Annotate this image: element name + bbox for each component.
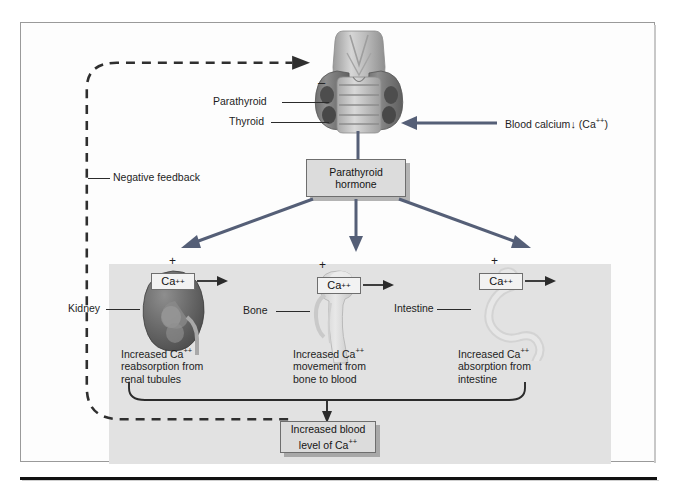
bone-ca-base: Ca: [327, 280, 341, 291]
parathyroid-label: Parathyroid: [213, 95, 267, 108]
bone-effect-l2: movement from: [293, 360, 366, 372]
negative-feedback-label: Negative feedback: [113, 171, 200, 184]
calcium-down-arrow-icon: ↓: [570, 118, 576, 130]
intestine-plus-sign: +: [491, 255, 498, 267]
kidney-effect-l2: reabsorption from: [121, 360, 203, 372]
kidney-ca-base: Ca: [161, 276, 175, 287]
intestine-calcium-out-arrow: [525, 274, 557, 288]
calcium-ion-close: ): [604, 118, 608, 130]
kidney-effect-l1a: Increased Ca: [121, 348, 183, 360]
bone-ca-charge: ++: [341, 280, 350, 291]
blood-calcium-text: Blood calcium: [505, 118, 570, 130]
intestine-calcium-box: Ca++: [479, 273, 523, 290]
hormone-to-targets-arrows: [121, 195, 561, 257]
hormone-line-1: Parathyroid: [329, 166, 383, 179]
intestine-ca-base: Ca: [489, 276, 503, 287]
thyroid-label: Thyroid: [229, 115, 264, 128]
intestine-label: Intestine: [394, 302, 434, 315]
intestine-leader-line: [437, 309, 471, 310]
figure-frame: – Parathyroid Thyroid Blood calcium↓ (Ca…: [20, 22, 655, 462]
intestine-ca-charge: ++: [503, 276, 512, 287]
negative-feedback-leader-line: [88, 178, 110, 179]
outcome-line-2-charge: ++: [348, 437, 357, 446]
bone-label: Bone: [243, 304, 268, 317]
bone-leader-line: [276, 311, 310, 312]
bone-calcium-box: Ca++: [317, 277, 361, 294]
outcome-line-2-base: level of Ca: [299, 438, 349, 450]
intestine-effect-l1b: ++: [520, 346, 529, 355]
kidney-ca-charge: ++: [175, 276, 184, 287]
kidney-plus-sign: +: [169, 255, 176, 267]
bone-calcium-out-arrow: [363, 278, 395, 292]
thyroid-leader-line: [271, 122, 329, 123]
bone-effect-l1b: ++: [355, 346, 364, 355]
kidney-effect-l1b: ++: [183, 346, 192, 355]
blood-calcium-stimulus-arrow: [397, 115, 497, 131]
parathyroid-hormone-box: Parathyroid hormone: [306, 159, 406, 197]
blood-calcium-label: Blood calcium↓ (Ca++): [505, 115, 608, 130]
calcium-ion-open: (Ca: [579, 118, 596, 130]
kidney-calcium-out-arrow: [197, 274, 229, 288]
outcome-line-1: Increased blood: [291, 423, 366, 436]
hormone-line-2: hormone: [335, 178, 376, 191]
bottom-rule: [20, 477, 657, 480]
bone-effect-l1a: Increased Ca: [293, 348, 355, 360]
parathyroid-leader-line: [282, 102, 329, 103]
outcome-line-2: level of Ca++: [299, 436, 357, 451]
kidney-calcium-box: Ca++: [151, 273, 195, 290]
kidney-label: Kidney: [68, 302, 100, 315]
intestine-effect-l2: absorption from: [458, 360, 531, 372]
kidney-leader-line: [106, 309, 140, 310]
negative-sign: –: [318, 77, 325, 90]
intestine-effect-l1a: Increased Ca: [458, 348, 520, 360]
increased-blood-calcium-box: Increased blood level of Ca++: [280, 421, 376, 453]
